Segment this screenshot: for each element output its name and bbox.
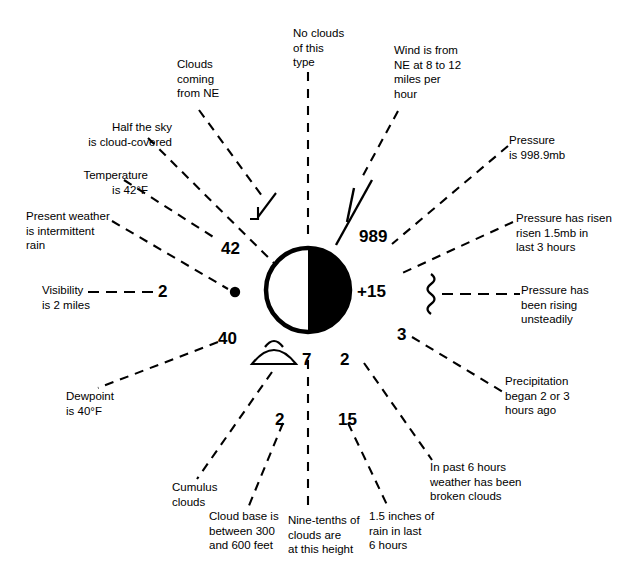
value-pressure: 989 [359, 228, 387, 245]
label-wind: Wind is from NE at 8 to 12 miles per hou… [394, 43, 499, 101]
value-precip-time: 3 [397, 326, 406, 343]
arrow-clouds-from-ne [258, 193, 276, 217]
value-cloud-base-height: 2 [275, 411, 284, 428]
label-temperature: Temperature is 42°F [38, 168, 148, 197]
value-pressure-change: +15 [357, 283, 386, 300]
value-past-weather: 2 [340, 351, 349, 368]
leader-rain-amount [348, 423, 389, 509]
sky-cover-symbol [266, 248, 350, 332]
leader-precip-began [412, 337, 503, 392]
leader-wind [360, 111, 398, 181]
leader-cloud-base [248, 423, 283, 508]
value-visibility: 2 [158, 283, 167, 300]
leader-past-six-hours [364, 363, 432, 460]
label-precipitation-began: Precipitation began 2 or 3 hours ago [505, 374, 605, 418]
label-cumulus: Cumulus clouds [172, 480, 252, 509]
label-dewpoint: Dewpoint is 40°F [66, 389, 156, 418]
leader-clouds-from-ne [199, 110, 262, 196]
leader-pressure [392, 146, 508, 244]
label-visibility: Visibility is 2 miles [42, 283, 112, 312]
label-pressure-risen: Pressure has risen risen 1.5mb in last 3… [516, 211, 628, 255]
leader-pressure-risen [398, 222, 513, 275]
label-present-weather: Present weather is intermittent rain [26, 209, 136, 253]
pressure-tendency-squiggle-icon [428, 274, 435, 314]
label-pressure: Pressure is 998.9mb [509, 133, 609, 162]
station-model-diagram: 42 2 989 +15 40 7 2 3 2 15 Clouds coming… [0, 0, 633, 584]
value-precip-amount: 15 [338, 411, 357, 428]
cumulus-cloud-icon [252, 341, 296, 364]
value-dewpoint: 40 [218, 330, 237, 347]
arrowhead-clouds-from-ne [250, 207, 258, 219]
label-pressure-rising-unsteadily: Pressure has been rising unsteadily [521, 283, 621, 327]
present-weather-dot-icon [230, 287, 240, 297]
label-past-six-hours: In past 6 hours weather has been broken … [430, 460, 548, 504]
label-no-clouds-type: No clouds of this type [293, 26, 383, 70]
label-cloud-base: Cloud base is between 300 and 600 feet [209, 509, 309, 553]
value-cloud-cover-amount: 7 [302, 351, 311, 368]
leader-dewpoint [98, 342, 218, 388]
label-half-sky: Half the sky is cloud-covered [52, 120, 172, 149]
value-temperature: 42 [221, 240, 240, 257]
leader-cumulus [197, 372, 272, 479]
label-clouds-from-ne: Clouds coming from NE [177, 57, 267, 101]
